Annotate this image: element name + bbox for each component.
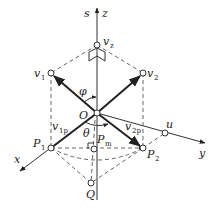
dashed-P1-Q (51, 148, 91, 183)
point-P2 (140, 145, 146, 151)
point-P1 (48, 145, 54, 151)
label-y: y (198, 147, 206, 160)
point-Q (88, 180, 94, 186)
label-Pm: P (96, 133, 105, 146)
label-P1: P (32, 137, 41, 150)
vector-diagram: s z v z v 1 v 2 φ O v 1p θ v 2p P m P 1 … (0, 0, 220, 218)
label-v2p-sub: 2p (132, 127, 141, 135)
point-O (94, 110, 100, 116)
dashed-vz-v1 (51, 45, 97, 73)
label-x: x (14, 153, 21, 166)
dashed-P2-u (143, 133, 165, 148)
point-Pm (91, 146, 97, 152)
point-v2 (140, 70, 146, 76)
label-Pm-sub: m (105, 140, 112, 148)
label-v2-sub: 2 (154, 74, 158, 82)
label-z: z (101, 7, 108, 20)
label-Q: Q (86, 188, 95, 201)
label-v2p: v (125, 120, 132, 133)
label-u: u (166, 118, 173, 131)
label-v1: v (34, 67, 41, 80)
label-vz: v (103, 35, 110, 48)
label-P1-sub: 1 (41, 144, 45, 152)
dashed-P2-Q (91, 148, 143, 183)
label-phi: φ (79, 85, 87, 98)
label-P2: P (146, 148, 155, 161)
label-v1p: v (52, 120, 59, 133)
dashed-vz-v2 (97, 45, 143, 73)
label-v1-sub: 1 (41, 74, 45, 82)
label-vz-sub: z (110, 42, 114, 50)
label-v2: v (147, 67, 154, 80)
label-v1p-sub: 1p (59, 127, 68, 135)
vector-v1 (54, 76, 97, 113)
vector-v2 (97, 76, 140, 113)
label-P2-sub: 2 (155, 155, 159, 163)
point-v1 (48, 70, 54, 76)
point-vz (94, 42, 100, 48)
label-O: O (79, 109, 88, 122)
label-s: s (84, 7, 90, 20)
label-theta: θ (83, 127, 90, 140)
y-axis (97, 113, 205, 143)
